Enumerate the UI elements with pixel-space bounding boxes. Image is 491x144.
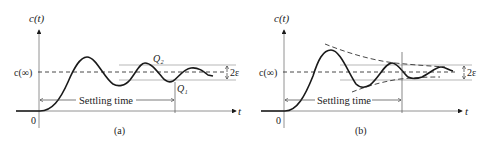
origin-label: 0: [276, 115, 281, 126]
origin-label: 0: [31, 115, 36, 126]
panel-a: c(t) t 0 c(∞) 2ε Q₂ Q₁ Settling time (a): [14, 12, 242, 137]
settling-time-diagram: c(t) t 0 c(∞) 2ε Q₂ Q₁ Settling time (a)…: [0, 0, 491, 144]
panel-caption: (a): [114, 125, 125, 137]
lower-envelope: [352, 77, 440, 92]
band-label: 2ε: [230, 67, 239, 78]
steady-state-label: c(∞): [259, 67, 277, 79]
panel-b: c(t) t 0 c(∞) 2ε Settling time (b): [259, 12, 476, 137]
settling-time-label: Settling time: [317, 95, 371, 106]
y-axis-label: c(t): [274, 12, 290, 25]
band-label: 2ε: [467, 67, 476, 78]
q1-label: Q₁: [177, 83, 188, 94]
upper-envelope: [325, 44, 445, 67]
t-axis-label: t: [465, 105, 469, 117]
q2-label: Q₂: [153, 53, 164, 64]
settling-time-label: Settling time: [79, 95, 133, 106]
y-axis-label: c(t): [29, 12, 45, 25]
steady-state-label: c(∞): [14, 67, 32, 79]
t-axis-label: t: [238, 105, 242, 117]
panel-caption: (b): [355, 125, 367, 137]
